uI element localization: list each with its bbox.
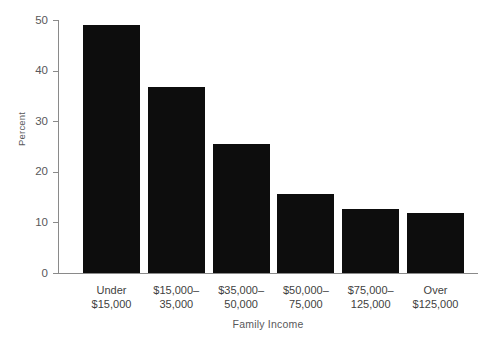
y-axis-tick-label: 40 (35, 65, 48, 77)
bar (407, 213, 464, 273)
x-axis-line (58, 273, 478, 274)
bar (148, 87, 205, 273)
plot-area (58, 20, 478, 273)
bar (277, 194, 334, 273)
bar (83, 25, 140, 273)
y-axis-tick-label: 30 (35, 116, 48, 128)
y-axis-tick-label: 20 (35, 167, 48, 179)
bar-chart: Percent 01020304050 Under $15,000$15,000… (0, 0, 486, 346)
y-axis-tick: 0 (53, 273, 58, 274)
y-axis-tick-label: 0 (42, 268, 48, 280)
x-axis-category-label: Over $125,000 (393, 283, 478, 311)
bar (213, 144, 270, 273)
x-axis-title: Family Income (58, 318, 478, 330)
y-axis-title: Percent (16, 112, 27, 146)
y-axis-tick-label: 10 (35, 217, 48, 229)
y-axis-tick-label: 50 (35, 15, 48, 27)
bar (342, 209, 399, 273)
